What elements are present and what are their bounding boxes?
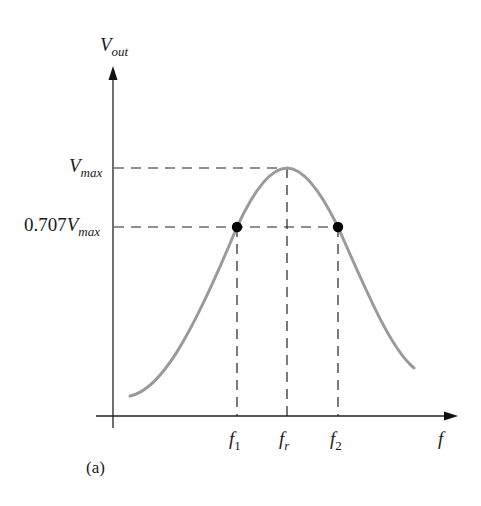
x-axis-label: f xyxy=(438,428,443,450)
y-tick-0707-sub: max xyxy=(78,224,100,239)
y-tick-0707-main: V xyxy=(67,214,79,235)
f1-point xyxy=(232,222,242,232)
y-axis-arrow-icon xyxy=(109,66,118,80)
x-tick-fr: fr xyxy=(279,428,289,454)
y-tick-0707-prefix: 0.707 xyxy=(24,214,67,235)
x-tick-f1-sub: 1 xyxy=(234,438,241,453)
y-tick-vmax-main: V xyxy=(69,155,81,176)
y-axis-label: Vout xyxy=(100,34,128,60)
x-tick-fr-sub: r xyxy=(284,438,289,453)
y-axis-label-sub: out xyxy=(112,44,129,59)
x-tick-f1: f1 xyxy=(229,428,241,454)
response-curve xyxy=(130,168,414,396)
x-tick-f2-sub: 2 xyxy=(335,438,342,453)
x-tick-f2: f2 xyxy=(330,428,342,454)
y-tick-vmax: Vmax xyxy=(69,155,102,181)
y-axis-label-main: V xyxy=(100,34,112,55)
y-tick-0707vmax: 0.707Vmax xyxy=(24,214,100,240)
y-tick-vmax-sub: max xyxy=(81,165,103,180)
x-axis-arrow-icon xyxy=(444,412,458,421)
figure-caption: (a) xyxy=(86,458,105,478)
f2-point xyxy=(333,222,343,232)
